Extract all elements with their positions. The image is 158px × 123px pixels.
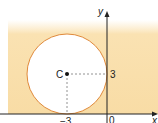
- x-tick-label: −3: [60, 116, 72, 123]
- origin-label: 0: [109, 115, 115, 123]
- y-axis-label: y: [97, 6, 104, 17]
- circle-diagram: C 3 −3 0 y x: [0, 0, 158, 123]
- y-axis-arrow-icon: [105, 11, 110, 17]
- center-point: [65, 72, 69, 76]
- y-tick-label: 3: [110, 69, 116, 80]
- x-axis-label: x: [151, 115, 158, 123]
- center-label: C: [56, 69, 63, 80]
